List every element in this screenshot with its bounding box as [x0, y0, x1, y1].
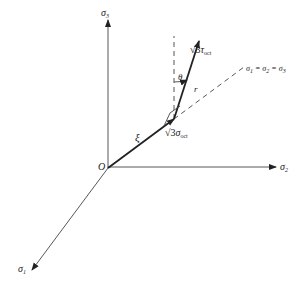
xi-label: ξ	[135, 131, 140, 144]
stress-space-diagram: σ3 σ2 σ1 O ξ θ r σ1 = σ2 = σ3 √3τoct √3σ…	[0, 0, 308, 292]
sigma1-axis	[32, 168, 108, 270]
theta-label: θ	[178, 72, 183, 82]
sigma3-label: σ3	[101, 7, 109, 19]
sigma1-label: σ1	[18, 263, 26, 275]
deviatoric-label: √3τoct	[190, 44, 212, 56]
origin-label: O	[98, 161, 105, 172]
sigma2-label: σ2	[280, 161, 288, 173]
hydrostatic-label: √3σoct	[165, 127, 188, 139]
hydrostatic-axis	[174, 67, 244, 119]
hydrostatic-axis-label: σ1 = σ2 = σ3	[246, 64, 286, 74]
r-label: r	[194, 84, 198, 94]
